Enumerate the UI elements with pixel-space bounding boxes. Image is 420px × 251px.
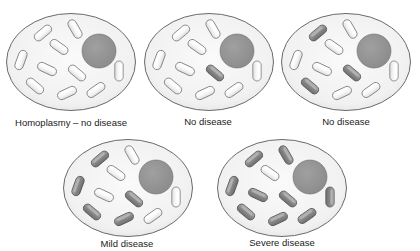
normal-mitochondrion — [172, 187, 180, 207]
mitochondrion-highlight — [330, 190, 332, 204]
nucleus — [357, 34, 391, 68]
mutant-mitochondrion — [326, 187, 334, 207]
cell-mild-disease-label: Mild disease — [101, 238, 154, 249]
nucleus — [139, 160, 173, 194]
cell-severe-disease-label: Severe disease — [249, 237, 314, 248]
cell-no-disease-2-label: No disease — [322, 116, 370, 127]
normal-mitochondrion — [253, 61, 261, 81]
cell-no-disease-1 — [143, 12, 275, 112]
nucleus — [82, 34, 116, 68]
mitochondrion-highlight — [394, 64, 396, 78]
nucleus — [293, 160, 327, 194]
mitochondrion-highlight — [257, 64, 259, 78]
cell-homoplasmy-label: Homoplasmy – no disease — [15, 117, 127, 128]
normal-mitochondrion — [115, 61, 123, 81]
cell-homoplasmy — [5, 12, 137, 112]
cell-no-disease-2 — [280, 12, 412, 112]
cell-mild-disease — [62, 138, 194, 238]
cell-severe-disease — [216, 138, 348, 238]
heteroplasmy-diagram: Homoplasmy – no disease — [0, 0, 420, 251]
nucleus — [220, 34, 254, 68]
mitochondrion-highlight — [176, 190, 178, 204]
cell-no-disease-1-label: No disease — [184, 116, 232, 127]
mitochondrion-highlight — [119, 64, 121, 78]
normal-mitochondrion — [390, 61, 398, 81]
